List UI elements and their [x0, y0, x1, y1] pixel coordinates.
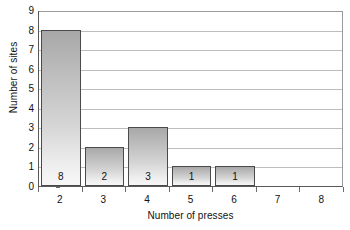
x-axis-tick-label: 6 [222, 194, 246, 206]
bar-value-label: 1 [216, 172, 254, 182]
x-axis-tick-label: 8 [309, 194, 333, 206]
y-axis-tick-label: 1 [22, 162, 34, 172]
x-axis-tick-label: 7 [266, 194, 290, 206]
x-axis-tick-group [38, 187, 343, 193]
plot-area: 82311 [38, 11, 343, 187]
y-axis-tick-label: 3 [22, 123, 34, 133]
y-axis-tick-label: 8 [22, 26, 34, 36]
y-axis-tick-label: 4 [22, 104, 34, 114]
x-axis-tick-label: 5 [179, 194, 203, 206]
x-axis-tick-mark [343, 187, 344, 192]
bar: 3 [128, 127, 168, 186]
x-axis-tick-mark [256, 187, 257, 192]
y-axis-tick-label: 9 [22, 6, 34, 16]
x-axis-tick-mark [125, 187, 126, 192]
x-axis-tick-mark [212, 187, 213, 192]
y-axis-tick-label: 0 [22, 182, 34, 192]
y-axis-tick-label: 2 [22, 143, 34, 153]
bar-value-label: 1 [173, 172, 211, 182]
x-axis-tick-label: 2 [48, 194, 72, 206]
y-axis-tick-label: 6 [22, 65, 34, 75]
bar-value-label: 2 [86, 172, 124, 182]
bar: 1 [215, 166, 255, 186]
x-axis-tick-mark [299, 187, 300, 192]
bar: 2 [85, 147, 125, 186]
y-axis-tick-label: 7 [22, 45, 34, 55]
bar: 1 [172, 166, 212, 186]
y-axis-tick-group: 0123456789 [22, 11, 34, 187]
x-axis-tick-label: 3 [91, 194, 115, 206]
x-axis-label-group: 2345678 [38, 194, 343, 208]
x-axis-tick-mark [38, 187, 39, 192]
x-axis-tick-mark [82, 187, 83, 192]
y-axis-title: Number of sites [8, 18, 19, 138]
x-axis-title: Number of presses [38, 210, 343, 221]
bar-value-label: 8 [42, 172, 80, 182]
bar-group: 82311 [39, 11, 342, 186]
y-axis-tick-label: 5 [22, 84, 34, 94]
bar-value-label: 3 [129, 172, 167, 182]
x-axis-tick-label: 4 [135, 194, 159, 206]
bar: 8 [41, 30, 81, 186]
histogram-chart: Number of sites 0123456789 82311 2345678… [0, 0, 350, 230]
x-axis-tick-mark [169, 187, 170, 192]
